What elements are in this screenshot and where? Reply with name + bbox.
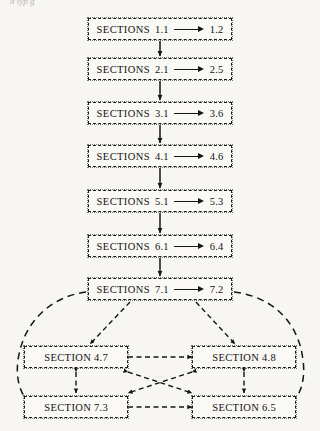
right-arrow-icon	[174, 66, 204, 73]
node-keyword: SECTIONS	[97, 24, 150, 35]
node-sections-7[interactable]: SECTIONS 7.1 7.2	[88, 278, 232, 300]
node-range-to: 5.3	[210, 196, 224, 207]
node-keyword: SECTIONS	[97, 241, 150, 252]
node-range-to: 2.5	[210, 64, 224, 75]
node-keyword: SECTION	[212, 402, 259, 413]
branch-arrow-to-4-8	[196, 302, 235, 344]
node-range-from: 3.1	[155, 108, 169, 119]
node-sections-4[interactable]: SECTIONS 4.1 4.6	[88, 145, 232, 167]
node-keyword: SECTIONS	[97, 108, 150, 119]
node-section-7-3[interactable]: SECTION 7.3	[24, 396, 128, 418]
node-range-to: 7.2	[210, 284, 224, 295]
branch-arrow-group	[90, 302, 235, 344]
node-range-to: 4.6	[210, 151, 224, 162]
node-keyword: SECTION	[212, 352, 259, 363]
node-number: 7.3	[94, 402, 108, 413]
node-keyword: SECTION	[44, 352, 91, 363]
node-keyword: SECTIONS	[97, 196, 150, 207]
node-range-from: 6.1	[155, 241, 169, 252]
node-sections-6[interactable]: SECTIONS 6.1 6.4	[88, 235, 232, 257]
right-arrow-icon	[174, 243, 204, 250]
node-range-from: 1.1	[155, 24, 169, 35]
lateral-arrow-group	[128, 357, 192, 407]
node-number: 6.5	[262, 402, 276, 413]
node-range-to: 3.6	[210, 108, 224, 119]
cross-arrow-group	[128, 372, 192, 393]
node-sections-3[interactable]: SECTIONS 3.1 3.6	[88, 102, 232, 124]
node-number: 4.7	[94, 352, 108, 363]
node-keyword: SECTIONS	[97, 284, 150, 295]
figure-canvas: a typ g	[0, 0, 320, 431]
node-keyword: SECTION	[44, 402, 91, 413]
right-arrow-icon	[174, 110, 204, 117]
right-arrow-icon	[174, 198, 204, 205]
right-arrow-icon	[174, 153, 204, 160]
node-range-to: 1.2	[210, 24, 224, 35]
node-sections-5[interactable]: SECTIONS 5.1 5.3	[88, 190, 232, 212]
right-arrow-icon	[174, 26, 204, 33]
node-section-4-7[interactable]: SECTION 4.7	[24, 346, 128, 368]
node-number: 4.8	[262, 352, 276, 363]
node-range-from: 2.1	[155, 64, 169, 75]
node-sections-2[interactable]: SECTIONS 2.1 2.5	[88, 58, 232, 80]
node-section-4-8[interactable]: SECTION 4.8	[192, 346, 296, 368]
node-range-from: 7.1	[155, 284, 169, 295]
node-keyword: SECTIONS	[97, 151, 150, 162]
node-range-to: 6.4	[210, 241, 224, 252]
node-keyword: SECTIONS	[97, 64, 150, 75]
node-section-6-5[interactable]: SECTION 6.5	[192, 396, 296, 418]
node-sections-1[interactable]: SECTIONS 1.1 1.2	[88, 18, 232, 40]
node-range-from: 4.1	[155, 151, 169, 162]
right-arrow-icon	[174, 286, 204, 293]
node-range-from: 5.1	[155, 196, 169, 207]
column-arrow-group	[76, 372, 244, 393]
branch-arrow-to-4-7	[90, 302, 130, 344]
